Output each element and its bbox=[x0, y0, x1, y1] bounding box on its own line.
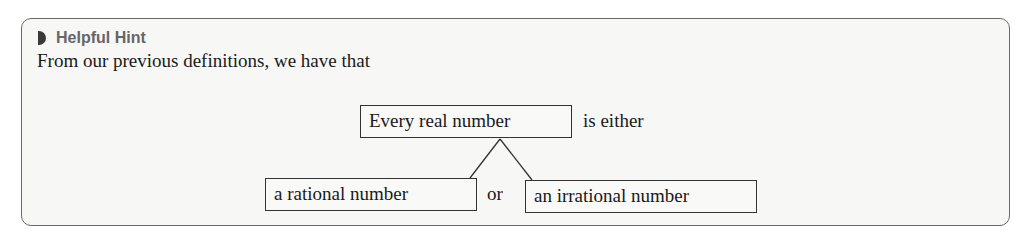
root-concept-box: Every real number bbox=[360, 105, 572, 138]
left-child-box: a rational number bbox=[265, 178, 477, 211]
right-child-box: an irrational number bbox=[525, 180, 757, 213]
root-suffix-text: is either bbox=[583, 106, 644, 136]
or-connector-text: or bbox=[487, 179, 503, 209]
